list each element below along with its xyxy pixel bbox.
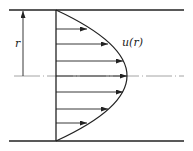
velocity-arrows [56,29,127,123]
radius-label: r [15,37,21,50]
parabolic-profile-curve [56,10,127,141]
velocity-profile-diagram: r u(r) [0,0,193,151]
velocity-label: u(r) [122,36,143,49]
